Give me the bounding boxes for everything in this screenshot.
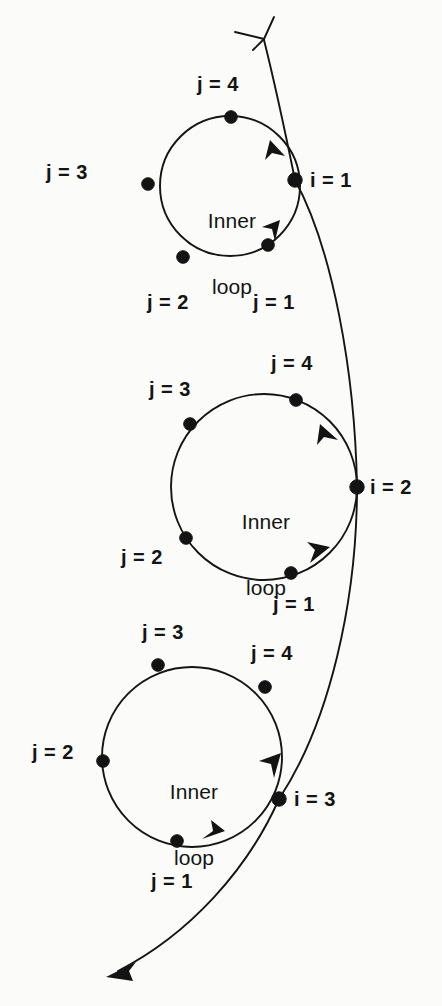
inner-loop-1-step-label-j4: j = 4 [188, 74, 248, 95]
inner-loop-3-step-label-j3: j = 3 [133, 622, 193, 643]
inner-loop-1-step-dot [142, 178, 155, 191]
inner-loop-3-title-line1: Inner [148, 781, 240, 803]
entry-arrowhead-icon [235, 17, 274, 50]
inner-loop-1-step-label-j3: j = 3 [37, 162, 97, 183]
inner-loop-2-step-label-j1: j = 1 [264, 594, 324, 615]
inner-loop-1-title: Inner loop [186, 166, 278, 342]
inner-loop-3-step-dot [152, 659, 165, 672]
inner-loop-1-arrowhead-top [265, 140, 285, 160]
inner-loop-2-step-label-j2: j = 2 [112, 547, 172, 568]
inner-loop-2-title-line1: Inner [220, 511, 312, 533]
inner-loop-3-title-line2: loop [148, 847, 240, 869]
inner-loop-3-step-label-j4: j = 4 [242, 643, 302, 664]
exit-arrowhead-icon [106, 962, 136, 981]
outer-loop-segment-i1-i2 [295, 180, 357, 487]
outer-node-label-i2: i = 2 [370, 477, 412, 498]
inner-loop-1-step-label-j2: j = 2 [138, 292, 198, 313]
inner-loop-2-step-dot [180, 532, 193, 545]
inner-loop-1-step-label-j1: j = 1 [244, 292, 304, 313]
inner-loop-3-step-label-j1: j = 1 [142, 871, 202, 892]
inner-loop-3-step-label-j2: j = 2 [23, 742, 83, 763]
inner-loop-1-step-dot [225, 111, 238, 124]
inner-loop-3-arrowhead-right [259, 753, 281, 778]
outer-node-label-i3: i = 3 [294, 789, 336, 810]
outer-node-label-i1: i = 1 [310, 170, 352, 191]
outer-node-i2-dot [350, 480, 364, 494]
outer-node-i3-dot [272, 792, 286, 806]
inner-loop-3-step-dot [259, 681, 272, 694]
outer-node-i1-dot [288, 173, 302, 187]
inner-loop-2-step-label-j4: j = 4 [262, 353, 322, 374]
inner-loop-2-step-dot [290, 394, 303, 407]
inner-loop-2-step-dot [184, 418, 197, 431]
outer-loop-entry-segment [264, 40, 295, 180]
inner-loop-2-title: Inner loop [220, 467, 312, 643]
inner-loop-2-step-label-j3: j = 3 [140, 379, 200, 400]
inner-loop-1-title-line1: Inner [186, 210, 278, 232]
nested-loop-diagram: Inner loop j = 1 j = 2 j = 3 j = 4 Inner… [0, 0, 442, 1006]
inner-loop-3-step-dot [97, 755, 110, 768]
